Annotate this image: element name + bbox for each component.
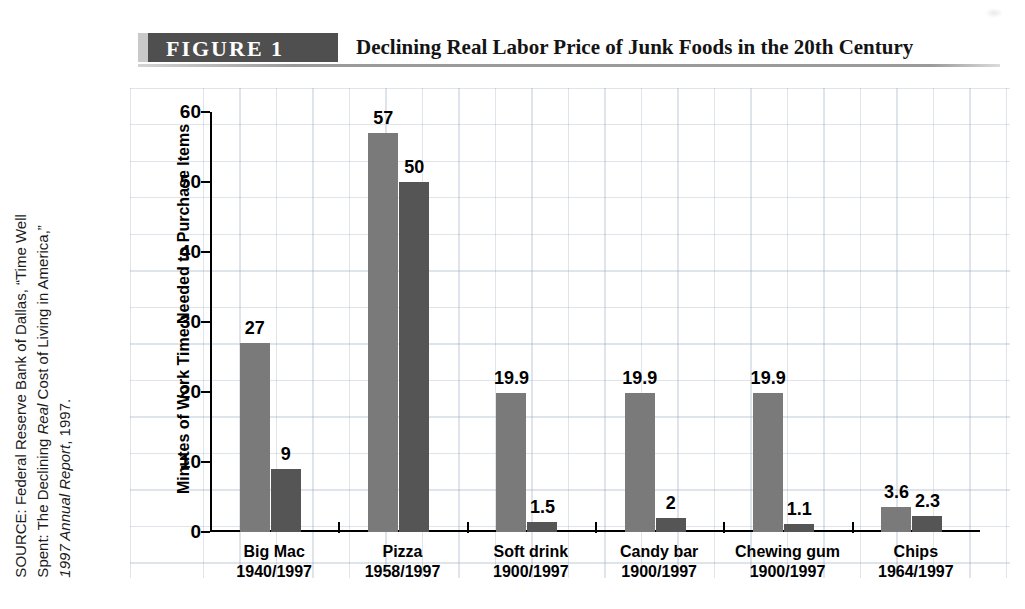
bar: 57 bbox=[368, 133, 398, 532]
bar: 2 bbox=[656, 518, 686, 532]
x-group-separator bbox=[595, 522, 597, 533]
bar: 1.1 bbox=[784, 524, 814, 532]
x-category-name: Chips bbox=[894, 543, 938, 560]
bar-value-label: 2 bbox=[666, 493, 676, 514]
x-category-years: 1940/1997 bbox=[210, 562, 338, 582]
source-note-line-2: Spent: The Declining Real Cost of Living… bbox=[32, 148, 54, 578]
x-category-years: 1958/1997 bbox=[338, 562, 466, 582]
y-tick-label: 20 bbox=[180, 381, 201, 403]
x-category-label: Chewing gum1900/1997 bbox=[723, 542, 851, 582]
x-category-label: Soft drink1900/1997 bbox=[467, 542, 595, 582]
source-note-line-3: 1997 Annual Report, 1997. bbox=[54, 148, 76, 578]
scan-artifact bbox=[985, 8, 1003, 18]
x-category-years: 1900/1997 bbox=[723, 562, 851, 582]
bar-value-label: 19.9 bbox=[751, 368, 786, 389]
source-note-line-2-part-b: Cost of Living in America,” bbox=[34, 225, 51, 403]
x-category-name: Soft drink bbox=[493, 543, 568, 560]
y-tick-label: 60 bbox=[180, 101, 201, 123]
bar-value-label: 1.5 bbox=[530, 497, 555, 518]
y-tick-label: 0 bbox=[190, 521, 201, 543]
y-tick-label: 10 bbox=[180, 451, 201, 473]
y-tick-mark bbox=[201, 181, 210, 183]
x-category-label: Chips1964/1997 bbox=[852, 542, 980, 582]
bar-value-label: 57 bbox=[373, 108, 393, 129]
bar: 50 bbox=[399, 182, 429, 532]
x-category-years: 1964/1997 bbox=[852, 562, 980, 582]
figure-number-badge: FIGURE 1 bbox=[138, 33, 338, 62]
x-group-separator bbox=[338, 522, 340, 533]
x-category-name: Candy bar bbox=[620, 543, 698, 560]
source-note-line-3-part-b: , 1997. bbox=[56, 399, 73, 445]
x-category-label: Pizza1958/1997 bbox=[338, 542, 466, 582]
bar-value-label: 9 bbox=[281, 444, 291, 465]
x-category-years: 1900/1997 bbox=[595, 562, 723, 582]
y-tick-mark bbox=[201, 111, 210, 113]
x-group-separator bbox=[723, 522, 725, 533]
bar-value-label: 1.1 bbox=[787, 499, 812, 520]
bar-value-label: 50 bbox=[404, 157, 424, 178]
x-group-separator bbox=[467, 522, 469, 533]
y-tick-mark bbox=[201, 251, 210, 253]
bar: 9 bbox=[271, 469, 301, 532]
source-note-line-2-part-a: Spent: The Declining bbox=[34, 434, 51, 577]
figure-number-label: FIGURE 1 bbox=[166, 36, 284, 62]
x-group-separator bbox=[852, 522, 854, 533]
bar: 2.3 bbox=[912, 516, 942, 532]
bar-value-label: 19.9 bbox=[622, 368, 657, 389]
bar: 19.9 bbox=[625, 393, 655, 532]
bar: 19.9 bbox=[496, 393, 526, 532]
x-category-name: Chewing gum bbox=[735, 543, 840, 560]
source-note-italic-report: 1997 Annual Report bbox=[56, 445, 73, 578]
y-tick-label: 50 bbox=[180, 171, 201, 193]
source-note-italic-real: Real bbox=[34, 404, 51, 435]
x-category-name: Big Mac bbox=[243, 543, 304, 560]
figure-header: FIGURE 1 Declining Real Labor Price of J… bbox=[138, 33, 1000, 67]
chart-frame: Minutes of Work Time Needed to Purchase … bbox=[130, 88, 1010, 578]
bar-value-label: 19.9 bbox=[494, 368, 529, 389]
figure-title: Declining Real Labor Price of Junk Foods… bbox=[356, 35, 913, 60]
bar: 19.9 bbox=[753, 393, 783, 532]
x-category-label: Candy bar1900/1997 bbox=[595, 542, 723, 582]
y-tick-label: 30 bbox=[180, 311, 201, 333]
bar: 3.6 bbox=[881, 507, 911, 532]
plot-area: Minutes of Work Time Needed to Purchase … bbox=[210, 112, 980, 532]
bar: 1.5 bbox=[527, 522, 557, 533]
figure-header-rule bbox=[138, 64, 1000, 67]
source-note: SOURCE: Federal Reserve Bank of Dallas, … bbox=[10, 148, 75, 578]
y-tick-mark bbox=[201, 321, 210, 323]
y-tick-mark bbox=[201, 461, 210, 463]
y-tick-mark bbox=[201, 391, 210, 393]
bar-value-label: 27 bbox=[245, 318, 265, 339]
y-tick-label: 40 bbox=[180, 241, 201, 263]
y-tick-mark bbox=[201, 531, 210, 533]
x-category-label: Big Mac1940/1997 bbox=[210, 542, 338, 582]
x-category-name: Pizza bbox=[382, 543, 422, 560]
bar: 27 bbox=[240, 343, 270, 532]
x-category-years: 1900/1997 bbox=[467, 562, 595, 582]
plot-axis-lines bbox=[210, 112, 980, 532]
bar-value-label: 2.3 bbox=[915, 491, 940, 512]
bar-value-label: 3.6 bbox=[884, 482, 909, 503]
source-note-line-1: SOURCE: Federal Reserve Bank of Dallas, … bbox=[10, 148, 32, 578]
